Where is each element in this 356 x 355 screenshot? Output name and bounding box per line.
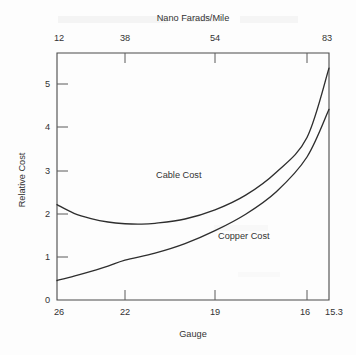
y-tick-label-4: 4 bbox=[45, 122, 50, 132]
top-tick-label-2: 54 bbox=[210, 33, 220, 43]
y-tick-label-3: 3 bbox=[45, 166, 50, 176]
series-label-cable-cost: Cable Cost bbox=[156, 170, 202, 180]
chart-plot-area: Nano Farads/Mile 12 38 54 83 5 4 3 2 1 0… bbox=[0, 0, 356, 355]
y-tick-label-0: 0 bbox=[45, 295, 50, 305]
bottom-tick-label-3: 16 bbox=[300, 307, 310, 317]
y-axis-title: Relative Cost bbox=[17, 152, 27, 207]
top-tick-label-1: 38 bbox=[120, 33, 130, 43]
bottom-tick-label-0: 26 bbox=[54, 307, 64, 317]
y-tick-label-1: 1 bbox=[45, 252, 50, 262]
top-axis-title: Nano Farads/Mile bbox=[157, 13, 230, 23]
bottom-tick-label-4: 15.3 bbox=[325, 307, 343, 317]
series-label-copper-cost: Copper Cost bbox=[218, 231, 270, 241]
x-axis-title: Gauge bbox=[179, 329, 207, 339]
bottom-tick-label-2: 19 bbox=[210, 307, 220, 317]
series-line-copper-cost bbox=[57, 109, 329, 280]
chart-figure: Nano Farads/Mile 12 38 54 83 5 4 3 2 1 0… bbox=[0, 0, 356, 355]
y-tick-label-2: 2 bbox=[45, 209, 50, 219]
bottom-tick-label-1: 22 bbox=[120, 307, 130, 317]
top-tick-label-0: 12 bbox=[54, 33, 64, 43]
top-tick-label-3: 83 bbox=[322, 33, 332, 43]
series-line-cable-cost bbox=[57, 68, 329, 224]
y-tick-label-5: 5 bbox=[45, 79, 50, 89]
